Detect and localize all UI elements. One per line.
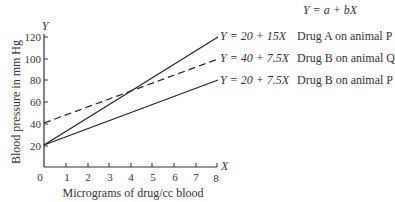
y-tick-label: 100: [25, 53, 42, 65]
legend-equation: Y = 20 + 15X: [220, 29, 287, 43]
legend-description: Drug A on animal P: [297, 29, 393, 43]
y-tick-label: 80: [30, 74, 42, 86]
chart-title: Y = a + bX: [303, 3, 358, 17]
y-tick-label: 120: [25, 31, 42, 43]
legend-description: Drug B on animal P: [297, 73, 393, 87]
y-tick-label: 40: [30, 118, 42, 130]
x-axis-variable: X: [220, 159, 229, 173]
origin-label: 0: [37, 171, 43, 183]
line-drug-b-animal-p: [44, 80, 218, 145]
y-axis-variable: Y: [42, 19, 50, 33]
x-tick-label: 1: [64, 171, 70, 183]
x-tick-label: 7: [193, 171, 199, 183]
x-tick-label: 2: [85, 171, 91, 183]
y-tick-label: 20: [30, 140, 42, 152]
legend-equation: Y = 20 + 7.5X: [220, 73, 290, 87]
x-tick-label: 6: [172, 171, 178, 183]
line-drug-b-animal-q: [44, 59, 218, 123]
y-axis-title: Blood pressure in mm Hg: [9, 40, 23, 164]
x-tick-label: 4: [128, 171, 134, 183]
y-tick-label: 60: [30, 96, 42, 108]
x-tick-label: 5: [150, 171, 156, 183]
x-tick-label: 8: [213, 172, 219, 184]
x-tick-label: 3: [107, 171, 113, 183]
legend-description: Drug B on animal Q: [297, 51, 395, 65]
legend-item: Y = 20 + 15X Drug A on animal P: [220, 29, 393, 43]
legend-item: Y = 40 + 7.5X Drug B on animal Q: [220, 51, 395, 65]
x-axis-title: Micrograms of drug/cc blood: [63, 186, 204, 200]
chart: 120 100 80 60 40 20 0 1 2 3 4 5 6 7 8 Y …: [0, 0, 395, 202]
legend-equation: Y = 40 + 7.5X: [220, 51, 290, 65]
legend-item: Y = 20 + 7.5X Drug B on animal P: [220, 73, 393, 87]
